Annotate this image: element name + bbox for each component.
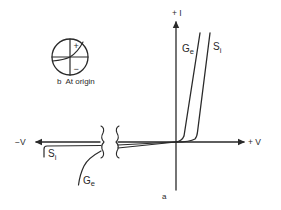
germanium-reverse-label-sub: e xyxy=(91,179,95,188)
negative-voltage-label: −V xyxy=(15,137,26,147)
inset-minus-sign: − xyxy=(74,64,79,74)
iv-characteristic-diagram: + − b At origin + I + V −V Ge Si xyxy=(0,0,281,210)
silicon-label-sub: i xyxy=(220,46,222,55)
silicon-reverse-label-sub: i xyxy=(55,153,57,162)
positive-voltage-label: + V xyxy=(248,137,261,147)
inset-plus-sign: + xyxy=(74,41,79,51)
germanium-reverse-label: Ge xyxy=(83,175,95,188)
inset-at-origin: + − b At origin xyxy=(52,39,95,86)
inset-caption: b At origin xyxy=(57,77,95,86)
current-axis-label: + I xyxy=(172,8,182,18)
panel-label-a: a xyxy=(162,192,167,201)
germanium-forward-label: Ge xyxy=(182,43,194,56)
axis-break-left xyxy=(101,126,104,158)
main-plot: + I + V −V Ge Si Si Ge a xyxy=(15,8,261,201)
silicon-reverse-label: Si xyxy=(48,148,57,162)
silicon-forward-label: Si xyxy=(213,41,222,55)
germanium-label-sub: e xyxy=(190,47,194,56)
